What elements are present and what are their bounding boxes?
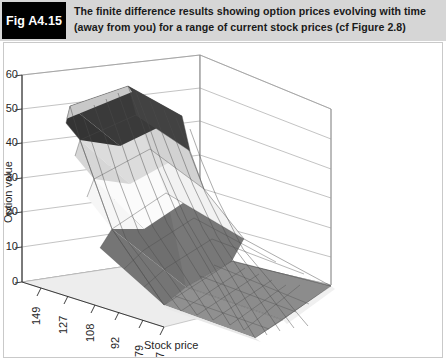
caption-line-2: (away from you) for a range of current s…: [74, 20, 442, 36]
x-tick-label-149: 149: [30, 307, 42, 325]
x-tick-label-127: 127: [57, 316, 69, 334]
plot-panel: 60 50 40 30 20 10 0 Option value 149 127…: [3, 42, 443, 358]
x-axis-title: Stock price: [144, 339, 198, 351]
y-tick-label-50: 50: [3, 102, 18, 114]
x-tick-label-67: 67: [154, 352, 166, 358]
figure-container: Fig A4.15 The finite difference results …: [0, 0, 446, 362]
figure-number-badge: Fig A4.15: [2, 2, 66, 39]
y-tick-label-60: 60: [3, 68, 18, 80]
figure-caption: The finite difference results showing op…: [74, 4, 442, 35]
y-tick-label-10: 10: [3, 240, 18, 252]
surface-plot-svg: [4, 43, 442, 357]
figure-header: Fig A4.15 The finite difference results …: [0, 0, 446, 41]
caption-line-1: The finite difference results showing op…: [74, 4, 442, 20]
y-tick-label-40: 40: [3, 136, 18, 148]
x-tick-label-108: 108: [84, 324, 96, 342]
x-tick-label-92: 92: [109, 337, 121, 349]
y-axis-title: Option value: [3, 161, 14, 223]
y-tick-label-0: 0: [3, 275, 18, 287]
